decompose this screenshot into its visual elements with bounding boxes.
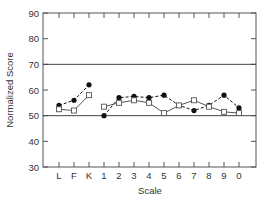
x-tick-label: 6: [176, 170, 181, 181]
x-tick-label: 1: [101, 170, 106, 181]
open-square-marker: [117, 100, 122, 105]
x-tick-label: 8: [206, 170, 211, 181]
filled-circle-marker: [101, 113, 106, 118]
open-square-marker: [177, 103, 182, 108]
open-square-marker: [192, 98, 197, 103]
y-tick-label: 80: [28, 33, 39, 44]
open-square-marker: [147, 100, 152, 105]
y-tick-label: 90: [28, 8, 39, 19]
x-tick-label: 9: [221, 170, 226, 181]
filled-circle-marker: [116, 95, 121, 100]
filled-circle-marker: [236, 105, 241, 110]
y-axis-label: Normalized Score: [4, 52, 15, 128]
x-tick-label: 3: [131, 170, 136, 181]
filled-circle-marker: [161, 93, 166, 98]
x-tick-label: F: [71, 170, 77, 181]
filled-circle-marker: [221, 93, 226, 98]
x-tick-label: 4: [146, 170, 151, 181]
x-tick-label: 2: [116, 170, 121, 181]
chart-canvas: 30405060708090LFK1234567890 Scale Normal…: [0, 0, 269, 202]
open-square-marker: [57, 107, 62, 112]
y-tick-label: 60: [28, 85, 39, 96]
filled-circle-marker: [191, 108, 196, 113]
x-tick-label: L: [56, 170, 61, 181]
plot-frame: [43, 13, 256, 167]
open-square-marker: [87, 93, 92, 98]
x-tick-label: K: [86, 170, 93, 181]
profile-chart: 30405060708090LFK1234567890 Scale Normal…: [0, 0, 269, 202]
open-square-marker: [162, 111, 167, 116]
x-tick-label: 5: [161, 170, 166, 181]
filled-circle-line: [104, 95, 239, 116]
y-tick-label: 70: [28, 59, 39, 70]
open-square-marker: [222, 109, 227, 114]
x-tick-label: 0: [236, 170, 241, 181]
y-tick-label: 50: [28, 110, 39, 121]
x-axis-label: Scale: [138, 185, 162, 196]
filled-circle-marker: [71, 98, 76, 103]
filled-circle-marker: [86, 82, 91, 87]
y-tick-label: 30: [28, 162, 39, 173]
open-square-marker: [237, 111, 242, 116]
open-square-marker: [72, 108, 77, 113]
open-square-marker: [132, 98, 137, 103]
open-square-marker: [207, 104, 212, 109]
open-square-marker: [102, 104, 107, 109]
series-layer: [56, 82, 241, 118]
x-tick-label: 7: [191, 170, 196, 181]
open-square-line: [104, 100, 239, 113]
y-tick-label: 40: [28, 136, 39, 147]
filled-circle-marker: [146, 95, 151, 100]
